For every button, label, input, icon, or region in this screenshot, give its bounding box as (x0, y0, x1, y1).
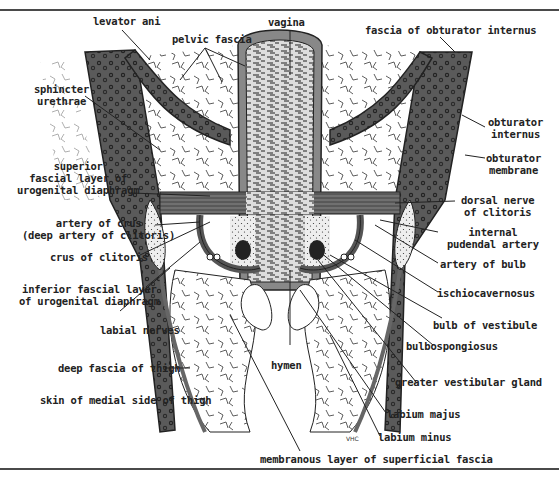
label-hymen: hymen (271, 359, 302, 371)
label-inferior-fascial-layer: inferior fascial layer of urogenital dia… (19, 283, 160, 307)
artist-signature: VHC (346, 435, 359, 442)
label-artery-of-bulb: artery of bulb (440, 258, 526, 270)
label-labial-nerves: labial nerves (100, 324, 180, 336)
label-superior-fascial-layer: superior fascial layer of urogenital dia… (17, 160, 139, 196)
left-greater-vestibular-gland (235, 240, 251, 260)
label-pelvic-fascia: pelvic fascia (172, 33, 252, 45)
label-ischiocavernosus: ischiocavernosus (437, 287, 535, 299)
label-dorsal-nerve-clitoris: dorsal nerve of clitoris (461, 194, 534, 218)
label-vagina: vagina (268, 16, 305, 28)
label-labium-majus: labium majus (387, 408, 460, 420)
label-bulbospongiosus: bulbospongiosus (406, 340, 498, 352)
label-skin-medial-thigh: skin of medial side of thigh (40, 394, 211, 406)
label-obturator-membrane: obturator membrane (486, 152, 541, 176)
label-deep-fascia-thigh: deep fascia of thigh (58, 362, 180, 374)
right-greater-vestibular-gland (309, 240, 325, 260)
label-labium-minus: labium minus (378, 431, 451, 443)
label-greater-vestibular-gland: greater vestibular gland (395, 376, 542, 388)
label-crus-of-clitoris: crus of clitoris (50, 251, 148, 263)
label-artery-of-crus: artery of crus (deep artery of clitoris) (22, 217, 175, 241)
label-levator-ani: levator ani (93, 15, 160, 27)
label-obturator-internus: obturator internus (488, 116, 543, 140)
label-fascia-obturator-internus: fascia of obturator internus (365, 24, 536, 36)
label-internal-pudendal-artery: internal pudendal artery (447, 226, 539, 250)
label-sphincter-urethrae: sphincter urethrae (34, 83, 89, 107)
label-membranous-layer: membranous layer of superficial fascia (260, 453, 493, 465)
label-bulb-of-vestibule: bulb of vestibule (433, 319, 537, 331)
